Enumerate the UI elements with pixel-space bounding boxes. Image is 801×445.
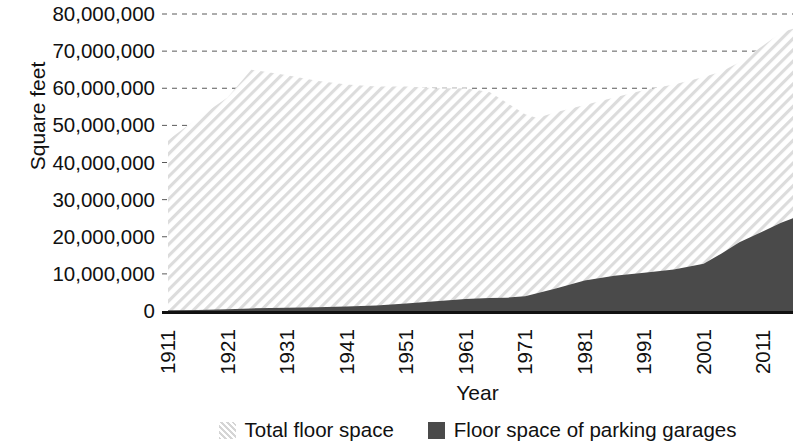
x-axis-tick-labels: 1911192119311941195119611971198119912001…	[0, 318, 801, 380]
x-tick-label: 1941	[335, 322, 359, 382]
x-tick-label: 1951	[394, 322, 418, 382]
x-tick-label: 1911	[156, 322, 180, 382]
x-tick-label: 2001	[692, 322, 716, 382]
x-tick-label: 1971	[513, 322, 537, 382]
x-tick-label: 2011	[751, 322, 775, 382]
y-tick-label: 60,000,000	[7, 78, 155, 98]
chart-legend: Total floor space Floor space of parking…	[162, 420, 793, 445]
plot-area	[162, 0, 793, 315]
legend-label-total-floor-space: Total floor space	[245, 420, 394, 440]
y-tick-label: 50,000,000	[7, 115, 155, 135]
area-chart: Square feet 010,000,00020,000,00030,000,…	[0, 0, 801, 445]
y-tick-label: 70,000,000	[7, 41, 155, 61]
x-axis-title: Year	[162, 381, 793, 405]
y-tick-label: 30,000,000	[7, 190, 155, 210]
y-tick-label: 80,000,000	[7, 4, 155, 24]
x-tick-label: 1961	[454, 322, 478, 382]
legend-item-parking-garages[interactable]: Floor space of parking garages	[428, 420, 737, 440]
y-axis-tick-labels: 010,000,00020,000,00030,000,00040,000,00…	[0, 0, 155, 330]
chart-canvas	[162, 0, 793, 315]
x-tick-label: 1991	[632, 322, 656, 382]
legend-label-parking-garages: Floor space of parking garages	[454, 420, 737, 440]
x-tick-label: 1981	[573, 322, 597, 382]
hatched-swatch-icon	[219, 422, 236, 439]
x-tick-label: 1921	[216, 322, 240, 382]
y-tick-label: 40,000,000	[7, 153, 155, 173]
solid-swatch-icon	[428, 422, 445, 439]
legend-item-total-floor-space[interactable]: Total floor space	[219, 420, 394, 440]
x-tick-label: 1931	[275, 322, 299, 382]
y-tick-label: 10,000,000	[7, 264, 155, 284]
y-tick-label: 20,000,000	[7, 227, 155, 247]
